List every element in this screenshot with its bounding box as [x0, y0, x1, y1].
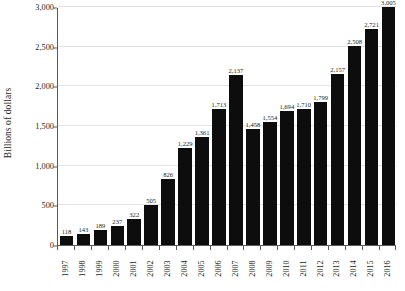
- gridline: [58, 6, 396, 7]
- bar-rect[interactable]: 2,508: [348, 46, 362, 245]
- bar-value-label: 118: [62, 228, 72, 235]
- bar[interactable]: 1,799: [314, 102, 328, 245]
- plot-area: 1181431892373225058261,2291,3611,7132,13…: [57, 8, 396, 246]
- bar-rect[interactable]: 1,361: [195, 137, 209, 245]
- bar-rect[interactable]: 2,137: [229, 75, 243, 245]
- bar[interactable]: 826: [161, 179, 175, 245]
- bar-rect[interactable]: 143: [77, 234, 91, 245]
- bar[interactable]: 2,721: [365, 29, 379, 245]
- bar-value-label: 1,458: [245, 121, 260, 128]
- bar[interactable]: 1,361: [195, 137, 209, 245]
- y-axis-tick-label: 1,000: [20, 163, 54, 171]
- bar-rect[interactable]: 118: [60, 236, 74, 245]
- bar[interactable]: 143: [77, 234, 91, 245]
- bar-rect[interactable]: 2,721: [365, 29, 379, 245]
- x-axis-tick-label-text: 2016: [383, 260, 392, 276]
- bar[interactable]: 1,694: [280, 111, 294, 245]
- bar-value-label: 189: [95, 222, 105, 229]
- bar[interactable]: 237: [111, 226, 125, 245]
- bar-rect[interactable]: 322: [127, 219, 141, 245]
- bar-rect[interactable]: 1,554: [263, 122, 277, 245]
- bar[interactable]: 2,157: [331, 74, 345, 245]
- bar-value-label: 1,554: [262, 114, 277, 121]
- y-axis-title: Billions of dollars: [0, 0, 16, 246]
- bar[interactable]: 3,005: [382, 7, 396, 245]
- bar-rect[interactable]: 1,458: [246, 129, 260, 245]
- y-axis-tick-label: 2,000: [20, 83, 54, 91]
- bar[interactable]: 1,458: [246, 129, 260, 245]
- y-axis-tick-label: 0: [20, 242, 54, 250]
- bar-value-label: 2,721: [364, 21, 379, 28]
- bar[interactable]: 1,713: [212, 109, 226, 245]
- bar-value-label: 2,157: [330, 66, 345, 73]
- bar-value-label: 2,137: [229, 67, 244, 74]
- bar-rect[interactable]: 1,694: [280, 111, 294, 245]
- bar[interactable]: 1,554: [263, 122, 277, 245]
- x-axis-tick-labels: 1997199819992000200120022003200420052006…: [57, 250, 396, 291]
- y-axis-tick-label: 3,000: [20, 4, 54, 12]
- bar-rect[interactable]: 2,157: [331, 74, 345, 245]
- x-axis-tick-label: 2016: [369, 250, 405, 288]
- y-axis-tick-label: 2,500: [20, 44, 54, 52]
- bar-rect[interactable]: 1,229: [178, 148, 192, 246]
- bar-value-label: 1,710: [296, 101, 311, 108]
- bar-rect[interactable]: 505: [144, 205, 158, 245]
- bar-value-label: 2,508: [347, 38, 362, 45]
- bar[interactable]: 2,508: [348, 46, 362, 245]
- y-axis-tick-label: 500: [20, 202, 54, 210]
- bar[interactable]: 1,710: [297, 109, 311, 245]
- bar-series: 1181431892373225058261,2291,3611,7132,13…: [58, 8, 396, 245]
- bar-rect[interactable]: 237: [111, 226, 125, 245]
- bar[interactable]: 118: [60, 236, 74, 245]
- bar[interactable]: 189: [94, 230, 108, 245]
- bar-value-label: 3,005: [381, 0, 396, 6]
- bar-value-label: 1,799: [313, 94, 328, 101]
- bar-value-label: 237: [112, 218, 122, 225]
- bar-value-label: 143: [78, 226, 88, 233]
- bar-rect[interactable]: 826: [161, 179, 175, 245]
- y-axis-tick-labels: 05001,0001,5002,0002,5003,000: [16, 0, 54, 291]
- bar-rect[interactable]: 189: [94, 230, 108, 245]
- y-axis-title-label: Billions of dollars: [3, 88, 13, 159]
- bar-rect[interactable]: 1,710: [297, 109, 311, 245]
- bar-rect[interactable]: 1,799: [314, 102, 328, 245]
- y-axis-tick-label: 1,500: [20, 123, 54, 131]
- bar-value-label: 505: [146, 197, 156, 204]
- bar-value-label: 1,713: [212, 101, 227, 108]
- bar-chart: Billions of dollars 05001,0001,5002,0002…: [0, 0, 405, 291]
- bar-value-label: 1,361: [195, 129, 210, 136]
- bar[interactable]: 1,229: [178, 148, 192, 246]
- bar[interactable]: 505: [144, 205, 158, 245]
- bar-rect[interactable]: 3,005: [382, 7, 396, 245]
- bar-value-label: 322: [129, 211, 139, 218]
- bar-value-label: 1,694: [279, 103, 294, 110]
- bar[interactable]: 2,137: [229, 75, 243, 245]
- bar[interactable]: 322: [127, 219, 141, 245]
- bar-rect[interactable]: 1,713: [212, 109, 226, 245]
- bar-value-label: 826: [163, 171, 173, 178]
- bar-value-label: 1,229: [178, 140, 193, 147]
